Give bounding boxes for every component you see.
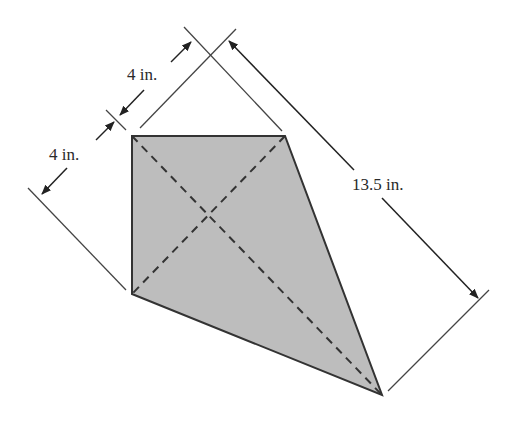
- extension-line-bottom: [388, 290, 489, 391]
- dimension-label-lower: 4 in.: [49, 145, 79, 164]
- arrow-lower-up: [96, 122, 114, 140]
- dimension-label-long: 13.5 in.: [352, 175, 403, 194]
- extension-line-left: [28, 188, 126, 290]
- arrow-upper-up: [171, 42, 191, 62]
- arrow-upper-down: [120, 90, 144, 115]
- arrow-lower-down: [42, 168, 67, 194]
- kite-diagram: 4 in. 4 in. 13.5 in.: [0, 0, 520, 421]
- dimension-label-upper: 4 in.: [127, 65, 157, 84]
- arrow-long-down: [382, 198, 478, 298]
- extension-line-top-a: [184, 27, 282, 131]
